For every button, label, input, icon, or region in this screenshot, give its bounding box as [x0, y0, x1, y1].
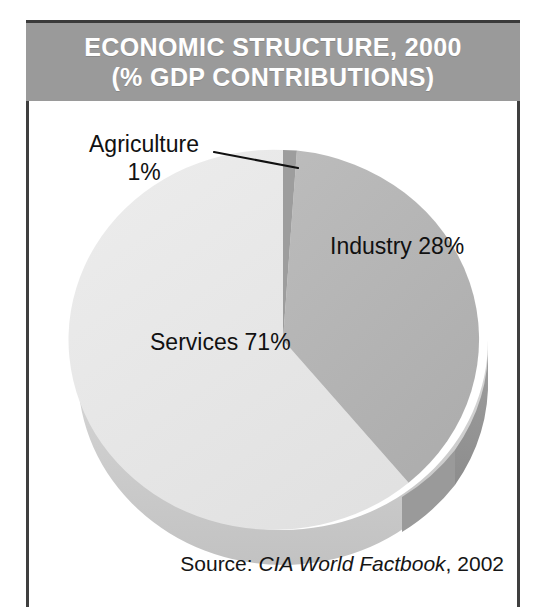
chart-title-band: ECONOMIC STRUCTURE, 2000 (% GDP CONTRIBU… [26, 20, 520, 101]
source-prefix: Source: [180, 552, 252, 575]
source-year: , 2002 [446, 552, 504, 575]
slice-label-industry: Industry 28% [330, 232, 464, 260]
slice-label-services: Services 71% [150, 328, 291, 356]
source-work-title: CIA World Factbook [258, 552, 445, 575]
chart-title-line-2: (% GDP CONTRIBUTIONS) [111, 62, 434, 92]
chart-title-line-1: ECONOMIC STRUCTURE, 2000 [84, 32, 462, 62]
source-caption: Source: CIA World Factbook, 2002 [180, 552, 504, 576]
agriculture-label-value: 1% [66, 158, 222, 186]
figure-container: ECONOMIC STRUCTURE, 2000 (% GDP CONTRIBU… [0, 0, 544, 607]
agriculture-label-name: Agriculture [89, 131, 199, 157]
slice-label-agriculture: Agriculture 1% [66, 130, 222, 186]
